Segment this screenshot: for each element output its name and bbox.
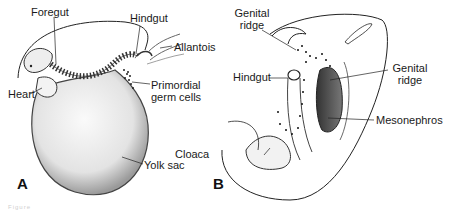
label-mesonephros: Mesonephros xyxy=(376,114,443,126)
figure-caption: Figure xyxy=(8,204,31,210)
illustration-canvas xyxy=(0,0,450,212)
label-genital-ridge-top-1: Genital xyxy=(232,7,272,19)
label-hindgut-a: Hindgut xyxy=(130,12,168,24)
label-primordial: Primordial xyxy=(151,79,201,91)
label-germ-cells: germ cells xyxy=(151,91,201,103)
panel-b-drawing xyxy=(222,14,388,200)
label-genital-ridge-top-2: ridge xyxy=(232,19,272,31)
label-cloaca: Cloaca xyxy=(175,148,209,160)
label-yolk-sac: Yolk sac xyxy=(144,159,185,171)
label-allantois: Allantois xyxy=(174,41,216,53)
label-genital-ridge-right-1: Genital xyxy=(388,62,432,74)
panel-label-b: B xyxy=(213,175,224,192)
panel-label-a: A xyxy=(17,175,28,192)
label-genital-ridge-right-2: ridge xyxy=(388,74,432,86)
mesonephros-shape xyxy=(316,67,342,132)
label-heart: Heart xyxy=(8,88,35,100)
label-foregut: Foregut xyxy=(31,6,69,18)
label-hindgut-b: Hindgut xyxy=(233,71,271,83)
